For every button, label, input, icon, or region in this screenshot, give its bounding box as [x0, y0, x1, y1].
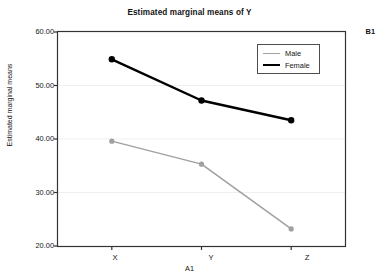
data-point-female-x[interactable]	[109, 56, 115, 62]
y-tick-label-50: 50.00	[20, 82, 54, 89]
data-point-female-z[interactable]	[288, 117, 294, 123]
y-tick-label-30: 30.00	[20, 189, 54, 196]
x-tick-label-y: Y	[196, 253, 226, 262]
legend-label-female: Female	[285, 61, 310, 70]
plot-area	[0, 0, 379, 280]
legend-swatch-male-icon	[263, 53, 280, 54]
y-tick-label-40: 40.00	[20, 135, 54, 142]
x-tick-label-z: Z	[292, 253, 322, 262]
series-line-male	[112, 141, 291, 229]
series-layer	[109, 56, 295, 231]
legend-swatch-female-icon	[263, 64, 280, 66]
data-point-male-y[interactable]	[199, 162, 204, 167]
data-point-male-z[interactable]	[289, 226, 294, 231]
y-axis-title: Estimated marginal means	[6, 67, 13, 147]
x-tick-label-x: X	[100, 253, 130, 262]
data-point-male-x[interactable]	[109, 139, 114, 144]
axis-ticks	[54, 32, 291, 250]
legend-label-male: Male	[285, 49, 301, 58]
legend-item-male[interactable]: Male	[263, 47, 301, 59]
panel-label-b1: B1	[366, 27, 375, 36]
y-tick-label-60: 60.00	[20, 28, 54, 35]
data-point-female-y[interactable]	[198, 97, 204, 103]
legend: Male Female	[257, 44, 320, 74]
x-axis-title: A1	[0, 264, 379, 273]
chart-title: Estimated marginal means of Y	[0, 8, 379, 17]
y-tick-label-20: 20.00	[20, 242, 54, 249]
chart-container: Estimated marginal means of Y B1 Estimat…	[0, 0, 379, 280]
legend-item-female[interactable]: Female	[263, 59, 310, 71]
